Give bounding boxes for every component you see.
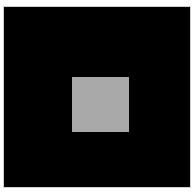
gray-center-square bbox=[72, 77, 129, 132]
black-square-frame bbox=[3, 6, 191, 188]
